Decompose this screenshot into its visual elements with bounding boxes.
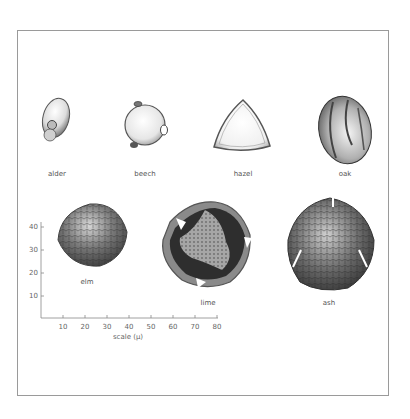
x-tick-40: 40 [125,324,134,331]
y-tick-10: 10 [29,293,38,300]
ash-grain [288,197,374,290]
x-tick-10: 10 [59,324,68,331]
label-elm: elm [80,279,93,286]
scale-axis-label: scale (µ) [113,334,143,341]
lime-grain [163,202,252,288]
x-tick-50: 50 [147,324,156,331]
x-tick-20: 20 [81,324,90,331]
x-tick-60: 60 [169,324,178,331]
x-tick-70: 70 [191,324,200,331]
label-beech: beech [134,171,155,178]
x-tick-80: 80 [213,324,222,331]
x-tick-30: 30 [103,324,112,331]
y-tick-20: 20 [29,270,38,277]
label-lime: lime [200,300,215,307]
y-tick-40: 40 [29,224,38,231]
oak-grain [312,91,377,168]
label-hazel: hazel [234,171,253,178]
y-tick-30: 30 [29,247,38,254]
alder-grain [38,95,73,141]
label-ash: ash [323,300,335,307]
label-alder: alder [48,171,66,178]
label-oak: oak [339,171,352,178]
hazel-grain [214,100,270,150]
beech-grain [125,102,168,149]
elm-grain [58,204,127,266]
pollen-illustrations [0,0,410,419]
